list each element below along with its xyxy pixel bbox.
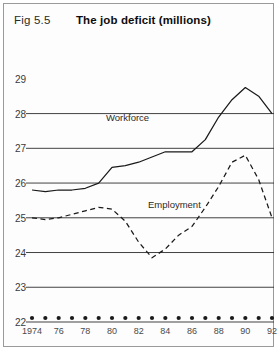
x-axis-dot	[43, 316, 47, 320]
series-line-workforce	[32, 88, 272, 192]
y-tick-27: 27	[6, 143, 26, 154]
x-axis-dot	[70, 316, 74, 320]
x-axis-dot	[137, 316, 141, 320]
y-tick-24: 24	[6, 247, 26, 258]
x-tick-82: 82	[134, 326, 144, 336]
x-axis-dot	[270, 316, 274, 320]
x-axis-dot	[30, 316, 34, 320]
x-axis-dot	[217, 316, 221, 320]
x-tick-76: 76	[54, 326, 64, 336]
x-tick-92: 92	[267, 326, 277, 336]
y-tick-26: 26	[6, 178, 26, 189]
x-tick-88: 88	[214, 326, 224, 336]
y-tick-25: 25	[6, 212, 26, 223]
x-axis-dot	[150, 316, 154, 320]
x-axis-dot	[190, 316, 194, 320]
x-tick-84: 84	[160, 326, 170, 336]
x-tick-90: 90	[240, 326, 250, 336]
x-tick-78: 78	[80, 326, 90, 336]
x-tick-86: 86	[187, 326, 197, 336]
x-axis-dot	[163, 316, 167, 320]
line-chart-svg	[0, 0, 280, 352]
y-tick-28: 28	[6, 108, 26, 119]
x-axis-dot	[177, 316, 181, 320]
x-axis-dot	[257, 316, 261, 320]
x-axis-dot	[203, 316, 207, 320]
chart-plot-area	[0, 0, 280, 352]
x-tick-1974: 1974	[22, 326, 42, 336]
x-axis-dot	[97, 316, 101, 320]
x-tick-80: 80	[107, 326, 117, 336]
x-axis-dot	[123, 316, 127, 320]
series-label-employment: Employment	[148, 199, 201, 210]
x-axis-dot	[83, 316, 87, 320]
x-axis-dot	[230, 316, 234, 320]
x-axis-dot	[110, 316, 114, 320]
x-axis-dot	[243, 316, 247, 320]
y-tick-23: 23	[6, 282, 26, 293]
series-label-workforce: Workforce	[106, 112, 149, 123]
y-tick-29: 29	[6, 73, 26, 84]
x-axis-dot	[57, 316, 61, 320]
